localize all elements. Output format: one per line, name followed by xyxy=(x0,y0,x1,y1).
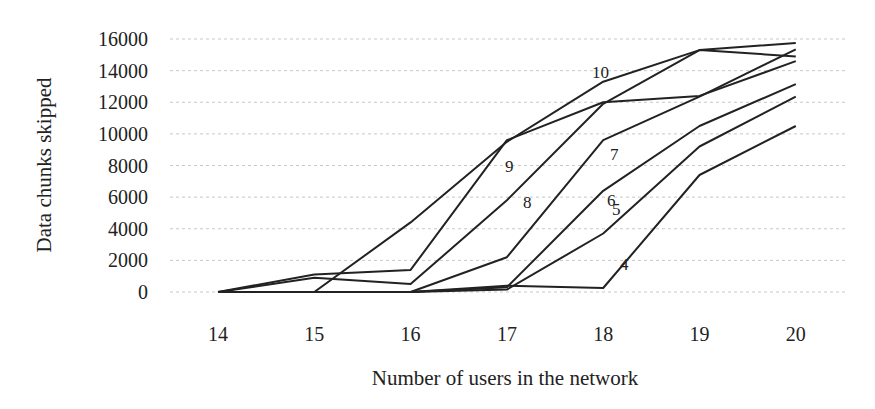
x-axis-label: Number of users in the network xyxy=(372,366,639,391)
y-tick-label: 12000 xyxy=(98,91,148,113)
x-tick-label: 17 xyxy=(497,323,517,345)
x-tick-label: 15 xyxy=(304,323,324,345)
x-tick-label: 19 xyxy=(690,323,710,345)
series-line-4 xyxy=(218,126,796,292)
y-tick-label: 0 xyxy=(138,281,148,303)
series-label-9: 9 xyxy=(505,157,514,176)
y-tick-label: 14000 xyxy=(98,60,148,82)
y-tick-label: 4000 xyxy=(108,218,148,240)
y-tick-label: 6000 xyxy=(108,186,148,208)
x-tick-label: 16 xyxy=(401,323,421,345)
series-label-10: 10 xyxy=(592,63,609,82)
y-tick-label: 10000 xyxy=(98,123,148,145)
y-tick-label: 16000 xyxy=(98,28,148,50)
y-axis-ticks: 0200040006000800010000120001400016000 xyxy=(98,28,148,303)
y-axis-label: Data chunks skipped xyxy=(32,78,57,253)
y-tick-label: 8000 xyxy=(108,155,148,177)
series-labels: 45678910 xyxy=(505,63,629,274)
series-label-7: 7 xyxy=(610,145,619,164)
x-tick-label: 14 xyxy=(208,323,228,345)
line-chart: 0200040006000800010000120001400016000 14… xyxy=(0,0,875,409)
series-line-5 xyxy=(218,97,796,292)
x-tick-label: 18 xyxy=(593,323,613,345)
series-label-8: 8 xyxy=(523,193,532,212)
series-label-6: 6 xyxy=(607,191,616,210)
x-axis-ticks: 14151617181920 xyxy=(208,323,806,345)
series-label-4: 4 xyxy=(620,255,629,274)
x-tick-label: 20 xyxy=(786,323,806,345)
y-tick-label: 2000 xyxy=(108,249,148,271)
